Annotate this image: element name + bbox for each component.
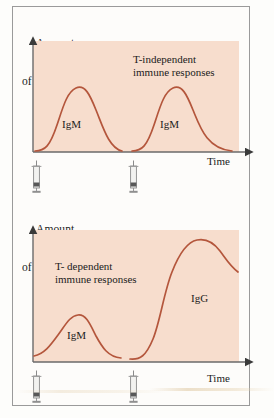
curve-label-igm-2: IgM [160,118,179,130]
x-axis-title-bottom: Time [207,372,230,384]
figure-root: Amount of antibody T-independ [0,0,274,418]
curve-igg-secondary-bottom [130,240,238,360]
syringe-icon-top-1 [30,160,43,194]
curve-igm-secondary-top [132,87,232,151]
curve-label-igg-bottom: IgG [191,292,208,304]
syringe-icon-bottom-1 [30,370,43,404]
panel-t-independent: Amount of antibody T-independ [0,0,274,205]
annotation-line1: T- dependent [55,260,112,272]
annotation-line2: immune responses [55,273,137,285]
annotation-line1: T-independent [133,53,196,65]
annotation-t-dependent: T- dependent immune responses [55,260,137,285]
annotation-line2: immune responses [133,66,215,78]
x-axis-title-top: Time [207,155,230,167]
curve-label-igm-1: IgM [62,118,81,130]
syringe-icon-top-2 [127,160,140,194]
annotation-t-independent: T-independent immune responses [133,53,215,78]
syringe-icon-bottom-2 [127,370,140,404]
panel-t-dependent: Amount of antibody T- dependent immune r… [0,196,274,418]
curve-label-igm-bottom: IgM [67,329,86,341]
